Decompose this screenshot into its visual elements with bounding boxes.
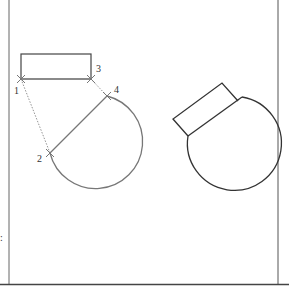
result-arc <box>187 97 281 190</box>
point-label-4: 4 <box>114 84 119 95</box>
result-diagram <box>173 83 281 190</box>
chord-2-4 <box>50 96 107 153</box>
point-label-1: 1 <box>14 85 19 96</box>
rotated-rectangle <box>173 83 238 136</box>
figure-canvas: 1 3 4 2 : <box>0 0 289 287</box>
margin-mark: : <box>0 232 3 243</box>
arc-4-2 <box>50 96 143 189</box>
shared-edge <box>188 97 242 136</box>
construction-diagram: 1 3 4 2 <box>14 54 143 189</box>
marker-4-icon <box>103 92 111 100</box>
marker-2-icon <box>46 149 54 157</box>
dotted-line-1-2 <box>21 79 50 153</box>
point-label-2: 2 <box>37 153 42 164</box>
point-label-3: 3 <box>96 63 101 74</box>
original-rectangle <box>21 54 91 79</box>
